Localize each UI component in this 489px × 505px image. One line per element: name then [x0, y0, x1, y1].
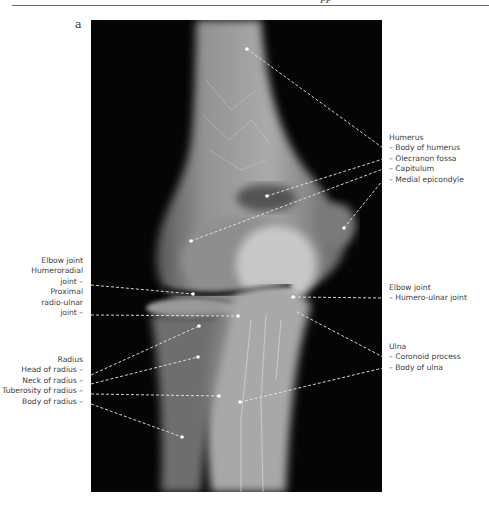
label-medial-epicondyle: – Medial epicondyle	[389, 175, 464, 185]
label-head-of-radius: Head of radius –	[2, 365, 83, 375]
label-tuberosity-of-radius: Tuberosity of radius –	[2, 386, 83, 396]
label-neck-of-radius: Neck of radius –	[2, 376, 83, 386]
label-radius-title: Radius	[2, 355, 83, 365]
label-humero-ulnar-joint: – Humero-ulnar joint	[389, 293, 467, 303]
label-humeroradial: Humeroradial	[31, 266, 83, 276]
page-header-fragment: pp	[320, 0, 332, 3]
label-elbow-joint-title-left: Elbow joint	[31, 256, 83, 266]
label-coronoid-process: – Coronoid process	[389, 352, 461, 362]
label-proximal: Proximal	[31, 287, 83, 297]
elbow-xray-image	[91, 20, 382, 492]
label-body-of-radius: Body of radius –	[2, 397, 83, 407]
label-olecranon-fossa: – Olecranon fossa	[389, 154, 464, 164]
label-group-radius: Radius Head of radius – Neck of radius –…	[2, 355, 83, 407]
label-body-of-humerus: – Body of humerus	[389, 143, 464, 153]
label-group-elbow-joint-right: Elbow joint – Humero-ulnar joint	[389, 283, 467, 304]
label-group-ulna: Ulna – Coronoid process – Body of ulna	[389, 342, 461, 373]
label-capitulum: – Capitulum	[389, 164, 464, 174]
label-radio-ulnar: radio-ulnar	[31, 298, 83, 308]
label-radio-ulnar-joint: joint –	[31, 308, 83, 318]
label-group-elbow-joint-left: Elbow joint Humeroradial joint – Proxima…	[31, 256, 83, 318]
label-ulna-title: Ulna	[389, 342, 461, 352]
label-group-humerus: Humerus – Body of humerus – Olecranon fo…	[389, 133, 464, 185]
label-humerus-title: Humerus	[389, 133, 464, 143]
label-humeroradial-joint: joint –	[31, 277, 83, 287]
label-body-of-ulna: – Body of ulna	[389, 363, 461, 373]
label-elbow-joint-title-right: Elbow joint	[389, 283, 467, 293]
page-header-rule	[12, 5, 489, 6]
panel-label: a	[75, 18, 82, 31]
xray-bones-drawing	[91, 20, 382, 492]
